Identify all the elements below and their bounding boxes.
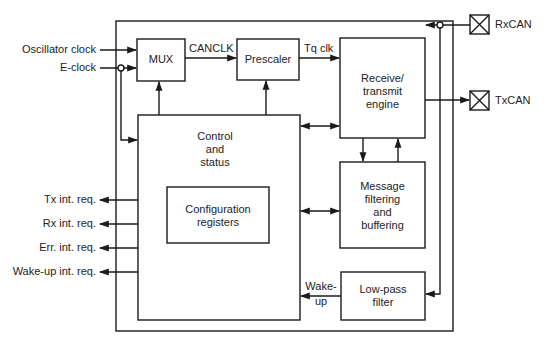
tq-clk-label: Tq clk xyxy=(304,42,333,55)
oscillator-clock-label: Oscillator clock xyxy=(22,43,96,56)
low-pass-filter-label: Low-pass filter xyxy=(341,283,425,309)
prescaler-label: Prescaler xyxy=(237,53,299,66)
rxcan-label: RxCAN xyxy=(495,18,532,31)
txcan-label: TxCAN xyxy=(495,94,530,107)
wake-up-signal-label: Wake- up xyxy=(304,280,338,308)
err-int-req-label: Err. int. req. xyxy=(39,241,96,254)
message-filtering-label: Message filtering and buffering xyxy=(340,180,425,232)
wake-up-int-req-label: Wake-up int. req. xyxy=(13,265,96,278)
config-registers-label: Configuration registers xyxy=(167,203,269,229)
rx-tx-engine-label: Receive/ transmit engine xyxy=(340,72,425,111)
control-status-label: Control and status xyxy=(180,130,250,169)
rx-int-req-label: Rx int. req. xyxy=(43,217,96,230)
e-clock-label: E-clock xyxy=(60,61,96,74)
canclk-label: CANCLK xyxy=(189,42,234,55)
mux-label: MUX xyxy=(137,53,185,66)
tx-int-req-label: Tx int. req. xyxy=(44,193,96,206)
